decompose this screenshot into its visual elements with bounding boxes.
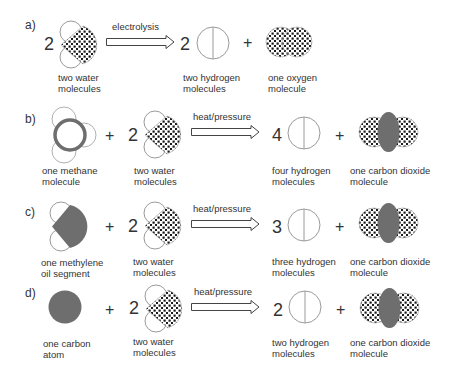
row-a-label: a) xyxy=(25,18,36,32)
row-a-hydrogen-caption: two hydrogen molecules xyxy=(183,72,240,94)
water-molecule-icon xyxy=(58,20,108,70)
row-a-process-label: electrolysis xyxy=(112,21,159,32)
plus-sign: + xyxy=(243,35,252,51)
row-d-process-label: heat/pressure xyxy=(194,286,252,297)
hydrogen-molecule-icon xyxy=(285,208,325,242)
row-c-hydrogen-coefficient: 3 xyxy=(272,218,282,236)
methylene-segment-icon xyxy=(48,200,103,255)
reaction-arrow-icon xyxy=(191,217,261,231)
row-a-water-coefficient: 2 xyxy=(44,35,54,53)
row-c-methylene-caption: one methylene oil segment xyxy=(41,257,103,279)
reaction-arrow-icon xyxy=(191,125,261,139)
row-c-water-caption: two water molecules xyxy=(133,256,176,278)
plus-sign: + xyxy=(335,128,344,144)
row-b-water-coefficient: 2 xyxy=(128,126,138,144)
reaction-arrow-icon xyxy=(191,300,261,314)
carbon-dioxide-molecule-icon xyxy=(358,201,420,245)
plus-sign: + xyxy=(105,128,114,144)
row-b-methane-caption: one methane molecule xyxy=(42,165,97,187)
plus-sign: + xyxy=(105,219,114,235)
row-c-label: c) xyxy=(25,205,35,219)
row-d-water-coefficient: 2 xyxy=(129,299,139,317)
row-d-water-caption: two water molecules xyxy=(133,336,176,358)
hydrogen-molecule-icon xyxy=(194,26,234,60)
methane-molecule-icon xyxy=(42,104,102,164)
water-molecule-icon xyxy=(143,284,193,334)
plus-sign: + xyxy=(335,219,344,235)
row-c-hydrogen-caption: three hydrogen molecules xyxy=(272,256,336,278)
carbon-atom-icon xyxy=(48,290,84,326)
water-molecule-icon xyxy=(142,110,192,160)
row-b-co2-caption: one carbon dioxide molecule xyxy=(350,165,430,187)
row-a-hydrogen-coefficient: 2 xyxy=(180,35,190,53)
hydrogen-molecule-icon xyxy=(286,290,326,324)
oxygen-molecule-icon xyxy=(266,22,316,62)
water-molecule-icon xyxy=(142,201,192,251)
row-d-carbon-caption: one carbon atom xyxy=(43,338,91,360)
row-b-hydrogen-coefficient: 4 xyxy=(272,126,282,144)
row-d-hydrogen-caption: two hydrogen molecules xyxy=(272,337,329,359)
row-b-hydrogen-caption: four hydrogen molecules xyxy=(272,165,331,187)
hydrogen-molecule-icon xyxy=(285,116,325,150)
plus-sign: + xyxy=(336,302,345,318)
row-b-label: b) xyxy=(25,112,36,126)
row-b-water-caption: two water molecules xyxy=(134,165,177,187)
carbon-dioxide-molecule-icon xyxy=(359,286,421,330)
row-c-water-coefficient: 2 xyxy=(128,217,138,235)
carbon-dioxide-molecule-icon xyxy=(358,110,420,154)
row-d-hydrogen-coefficient: 2 xyxy=(273,301,283,319)
row-c-co2-caption: one carbon dioxide molecule xyxy=(350,256,430,278)
row-a-oxygen-caption: one oxygen molecule xyxy=(268,72,317,94)
row-c-process-label: heat/pressure xyxy=(193,203,251,214)
reaction-arrow-icon xyxy=(106,35,176,49)
row-b-process-label: heat/pressure xyxy=(193,111,251,122)
row-d-label: d) xyxy=(25,286,36,300)
row-d-co2-caption: one carbon dioxide molecule xyxy=(350,337,430,359)
row-a-water-caption: two water molecules xyxy=(58,72,101,94)
plus-sign: + xyxy=(105,302,114,318)
